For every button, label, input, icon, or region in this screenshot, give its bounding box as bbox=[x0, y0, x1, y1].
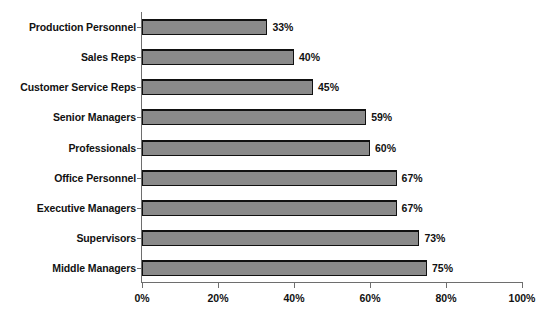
category-label: Customer Service Reps bbox=[0, 79, 136, 95]
bar bbox=[142, 49, 294, 65]
x-tick-mark bbox=[446, 283, 447, 288]
x-tick-label: 80% bbox=[435, 292, 456, 304]
category-label: Sales Reps bbox=[0, 49, 136, 65]
bar bbox=[142, 140, 370, 156]
x-tick-label: 40% bbox=[283, 292, 304, 304]
bar bbox=[142, 109, 366, 125]
category-axis-labels: Production Personnel Sales Reps Customer… bbox=[0, 12, 136, 283]
x-tick-mark bbox=[370, 283, 371, 288]
bar-value-label: 40% bbox=[299, 49, 320, 65]
bar-value-label: 59% bbox=[371, 109, 392, 125]
category-label: Middle Managers bbox=[0, 260, 136, 276]
x-tick-mark bbox=[294, 283, 295, 288]
bar-value-label: 75% bbox=[432, 260, 453, 276]
category-label: Supervisors bbox=[0, 230, 136, 246]
x-tick-mark bbox=[142, 283, 143, 288]
bar-value-label: 73% bbox=[424, 230, 445, 246]
x-tick-label: 100% bbox=[509, 292, 536, 304]
x-tick-mark bbox=[218, 283, 219, 288]
category-label: Production Personnel bbox=[0, 19, 136, 35]
category-label: Senior Managers bbox=[0, 109, 136, 125]
bar-value-label: 60% bbox=[375, 140, 396, 156]
x-tick-label: 60% bbox=[359, 292, 380, 304]
bar bbox=[142, 260, 427, 276]
x-tick-label: 0% bbox=[134, 292, 149, 304]
bar-value-label: 67% bbox=[402, 170, 423, 186]
category-label: Executive Managers bbox=[0, 200, 136, 216]
category-label: Office Personnel bbox=[0, 170, 136, 186]
x-tick-mark bbox=[522, 283, 523, 288]
bar-value-label: 67% bbox=[402, 200, 423, 216]
bar-value-label: 33% bbox=[272, 19, 293, 35]
bar bbox=[142, 170, 397, 186]
bar bbox=[142, 200, 397, 216]
x-tick-label: 20% bbox=[207, 292, 228, 304]
plot-area: 33%40%45%59%60%67%67%73%75% 0% 20% 40% 6… bbox=[142, 12, 522, 283]
bar-chart: Production Personnel Sales Reps Customer… bbox=[0, 0, 555, 318]
x-axis-line bbox=[141, 282, 523, 283]
bar bbox=[142, 19, 267, 35]
bar-value-label: 45% bbox=[318, 79, 339, 95]
bar bbox=[142, 79, 313, 95]
bar bbox=[142, 230, 419, 246]
category-label: Professionals bbox=[0, 140, 136, 156]
